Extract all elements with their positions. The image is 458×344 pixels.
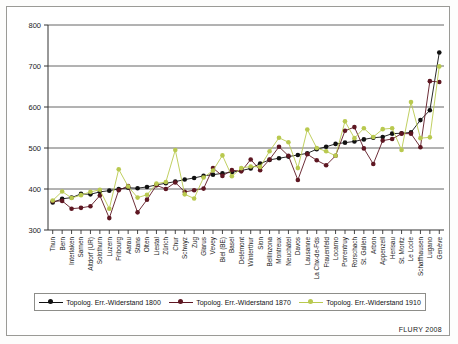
data-point [192,188,197,193]
data-point [211,172,216,177]
data-point [418,136,423,141]
x-tick-label: Fribourg [115,237,123,261]
data-point [107,206,112,211]
data-point [173,180,178,185]
x-tick-label: Delémont [238,237,245,265]
data-point [428,135,433,140]
y-tick-label: 500 [28,144,41,153]
x-tick-label: Glarus [200,237,207,256]
x-tick-label: Locarno [332,237,339,261]
legend-item-1800[interactable]: Topolog. Err.-Widerstand 1800 [39,299,161,306]
x-tick-label: Zug [191,237,199,248]
x-tick-label: Le Locle [407,237,414,262]
data-point [437,64,442,69]
data-point [230,174,235,179]
x-tick-label: Rorschach [351,237,358,268]
data-point [296,178,301,183]
data-point [305,152,310,157]
legend-swatch-1870 [169,302,193,303]
data-point [418,118,423,123]
data-point [126,184,131,189]
data-point [437,50,442,55]
data-point [277,144,282,149]
data-point [267,157,272,162]
data-point [324,149,329,154]
chart-screenshot: 300400500600700800 ThunBernInterlakenSar… [0,0,458,344]
x-tick-label: Neuchâtel [285,237,292,266]
data-point [399,148,404,153]
data-point [267,149,272,154]
data-point [390,126,395,131]
data-point [371,135,376,140]
x-axis-ticks [53,230,440,234]
x-tick-label: Schaffhausen [417,237,424,276]
x-tick-label: Vevey [209,236,217,254]
data-point [145,192,150,197]
data-point [352,136,357,141]
data-point [60,189,65,194]
legend-swatch-1910 [299,302,323,303]
data-point [50,198,55,203]
data-point [314,158,319,163]
data-point [352,125,357,130]
x-tick-label: Olten [143,237,150,253]
x-tick-label: Aarau [125,237,132,254]
data-point [79,193,84,198]
legend-item-1910[interactable]: Topolog. Err.-Widerstand 1910 [299,299,421,306]
x-tick-label: Bellinzona [266,237,273,267]
x-tick-label: Biel (BE) [219,237,227,262]
data-point [248,164,253,169]
y-tick-label: 600 [28,103,41,112]
data-point [333,153,338,158]
data-point [135,195,140,200]
x-tick-label: La Chx-de-Fds [313,237,320,279]
x-tick-label: Porrentruy [341,236,349,267]
data-point [182,192,187,197]
y-axis-tick-labels: 300400500600700800 [28,21,41,235]
data-point [380,127,385,132]
legend-item-1870[interactable]: Topolog. Err.-Widerstand 1870 [169,299,291,306]
legend-label-1870: Topolog. Err.-Widerstand 1870 [196,299,291,306]
data-point [314,146,319,151]
data-point [116,167,121,172]
y-tick-label: 400 [28,185,41,194]
x-tick-label: Schwyz [181,237,189,259]
x-tick-label: St. Gallen [360,237,367,266]
x-tick-label: Frauenfeld [323,237,330,268]
gridlines [48,25,444,189]
x-tick-label: Luzern [106,237,113,257]
legend-label-1800: Topolog. Err.-Widerstand 1800 [66,299,161,306]
data-point [390,137,395,142]
data-point [239,166,244,171]
data-point [201,175,206,180]
x-axis-tick-labels: ThunBernInterlakenSarnenAltdorf (UR)Solo… [49,236,443,279]
x-tick-label: Altdorf (UR) [87,237,95,271]
data-point [164,180,169,185]
data-point [173,148,178,153]
data-point [324,163,329,168]
data-point [98,188,103,193]
data-point [154,181,159,186]
data-point [277,156,282,161]
legend-label-1910: Topolog. Err.-Widerstand 1910 [326,299,421,306]
data-point [116,188,121,193]
data-point [192,176,197,181]
y-tick-label: 800 [28,21,41,30]
data-point [409,100,414,105]
x-tick-label: Bern [59,237,66,251]
data-point [362,137,367,142]
legend-swatch-1800 [39,302,63,303]
data-point [277,135,282,140]
x-tick-label: Sion [257,237,264,250]
x-tick-label: Lugano [426,237,434,259]
data-point [164,187,169,192]
x-tick-label: Arbon [370,237,377,254]
data-series-layer [50,50,441,220]
data-point [79,206,84,211]
credit-attribution: FLURY 2008 [399,326,442,333]
data-point [296,166,301,171]
data-point [69,196,74,201]
x-tick-label: Davos [294,237,301,255]
data-point [145,185,150,190]
data-point [258,165,263,170]
